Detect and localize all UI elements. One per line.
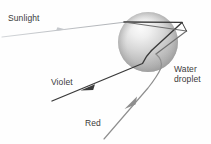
label-red: Red <box>85 119 101 129</box>
label-sunlight: Sunlight <box>8 14 40 24</box>
physics-diagram-rainbow-refraction: Sunlight Violet Red Water droplet <box>0 0 211 144</box>
label-water-droplet-line2: droplet <box>174 75 210 85</box>
water-droplet-sphere <box>118 12 178 72</box>
label-violet: Violet <box>51 78 73 88</box>
incident-sunlight-ray <box>2 22 126 37</box>
label-water-droplet: Water droplet <box>174 65 210 84</box>
